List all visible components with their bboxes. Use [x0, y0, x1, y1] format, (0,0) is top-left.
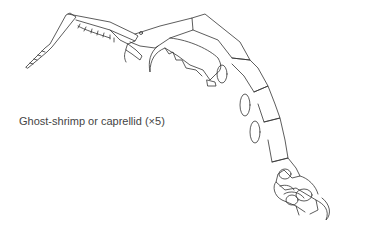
- rear-legs: [272, 158, 329, 220]
- body-segment-4: [264, 118, 288, 162]
- gill-2: [240, 94, 250, 116]
- gill-3: [250, 121, 260, 143]
- gnathopod-2-teeth: [165, 48, 202, 76]
- body-segment-2: [232, 58, 268, 92]
- gnathopod-1: [125, 44, 143, 62]
- body-segment-1: [192, 14, 250, 60]
- setae: [78, 24, 114, 42]
- antenna-segments: [30, 51, 45, 64]
- rear-leg-joint-3: [286, 195, 298, 205]
- body-segment-3: [254, 86, 280, 122]
- figure-caption: Ghost-shrimp or caprellid (×5): [19, 115, 165, 127]
- gill-1: [217, 65, 227, 83]
- antenna: [26, 13, 76, 68]
- gnathopod-2-joint: [207, 80, 216, 86]
- rear-leg-joint-2: [296, 189, 312, 201]
